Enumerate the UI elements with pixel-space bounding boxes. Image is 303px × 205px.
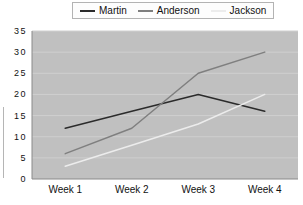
x-tick-label: Week 2 [102, 184, 162, 195]
x-tick-label: Week 4 [235, 184, 295, 195]
y-tick-label: 25 [0, 68, 27, 78]
jackson-line-swatch-icon [211, 10, 226, 12]
line-chart: Martin Anderson Jackson 35 30 25 20 15 1… [0, 0, 303, 205]
y-tick-label: 20 [0, 89, 27, 99]
martin-line-swatch-icon [80, 10, 95, 12]
legend-label-anderson: Anderson [157, 5, 200, 16]
x-tick-label: Week 3 [168, 184, 228, 195]
x-tick-label: Week 1 [35, 184, 95, 195]
legend-item-martin: Martin [80, 5, 127, 16]
y-tick-label: 30 [0, 47, 27, 57]
y-tick-label: 15 [0, 111, 27, 121]
anderson-line-swatch-icon [138, 10, 153, 12]
chart-legend: Martin Anderson Jackson [72, 2, 274, 19]
y-tick-label: 10 [0, 132, 27, 142]
y-tick-label: 5 [0, 153, 27, 163]
legend-label-martin: Martin [99, 5, 127, 16]
plot-area [0, 0, 303, 205]
legend-item-anderson: Anderson [138, 5, 200, 16]
y-tick-label: 35 [0, 26, 27, 36]
y-tick-label: 0 [0, 174, 27, 184]
legend-item-jackson: Jackson [211, 5, 267, 16]
legend-label-jackson: Jackson [230, 5, 267, 16]
